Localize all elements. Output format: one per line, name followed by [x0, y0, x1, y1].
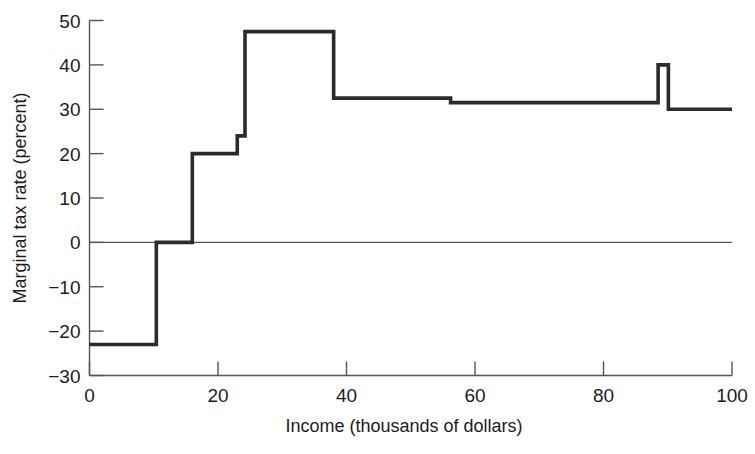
step-series-line	[90, 32, 733, 345]
x-axis-tick-labels: 020406080100	[84, 385, 748, 406]
y-tick-label: 10	[59, 188, 80, 209]
y-tick-label: −30	[48, 366, 80, 387]
x-axis-ticks	[90, 362, 733, 376]
y-tick-label: 30	[59, 99, 80, 120]
y-axis-title: Marginal tax rate (percent)	[10, 92, 30, 303]
y-tick-label: 50	[59, 11, 80, 32]
y-axis-tick-labels: −30−20−1001020304050	[48, 11, 80, 387]
y-tick-label: 40	[59, 55, 80, 76]
x-tick-label: 0	[84, 385, 95, 406]
x-tick-label: 40	[336, 385, 357, 406]
x-tick-label: 20	[207, 385, 228, 406]
x-tick-label: 80	[593, 385, 614, 406]
y-tick-label: 0	[70, 232, 81, 253]
y-tick-label: −10	[48, 277, 80, 298]
x-tick-label: 60	[464, 385, 485, 406]
marginal-tax-rate-chart: −30−20−1001020304050 020406080100 Income…	[0, 0, 755, 454]
y-tick-label: 20	[59, 144, 80, 165]
y-tick-label: −20	[48, 321, 80, 342]
y-axis-ticks	[90, 21, 104, 376]
chart-canvas: −30−20−1001020304050 020406080100 Income…	[0, 0, 755, 454]
x-axis-title: Income (thousands of dollars)	[285, 416, 522, 436]
x-tick-label: 100	[716, 385, 748, 406]
